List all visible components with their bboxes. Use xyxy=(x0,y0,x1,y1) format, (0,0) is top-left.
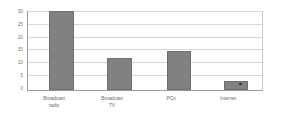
x-axis-label-broadcast-radio: Broadcast radio xyxy=(28,95,80,108)
speck-mark-icon xyxy=(239,83,242,85)
y-axis-tick-label-25: 25 xyxy=(3,22,23,27)
y-axis-tick-label-30: 30 xyxy=(3,9,23,14)
bar-broadcast-tv xyxy=(107,58,132,90)
y-axis-tick-label-20: 20 xyxy=(3,35,23,40)
bar-broadcast-radio xyxy=(49,11,74,90)
bar-internet xyxy=(224,81,248,90)
bar-chart: 30 25 20 15 10 5 0 Broadcast radio Broad… xyxy=(0,0,281,117)
bar-pcs xyxy=(167,51,191,90)
x-axis-label-internet: Internet xyxy=(203,95,253,102)
y-axis-tick-label-15: 15 xyxy=(3,47,23,52)
plot-area xyxy=(27,11,263,91)
y-axis-tick-label-5: 5 xyxy=(3,73,23,78)
x-axis-label-broadcast-tv: Broadcast TV xyxy=(86,95,138,108)
x-axis-label-pcs: PCs xyxy=(146,95,196,102)
y-axis-tick-label-10: 10 xyxy=(3,60,23,65)
y-axis-tick-label-0: 0 xyxy=(3,86,23,91)
